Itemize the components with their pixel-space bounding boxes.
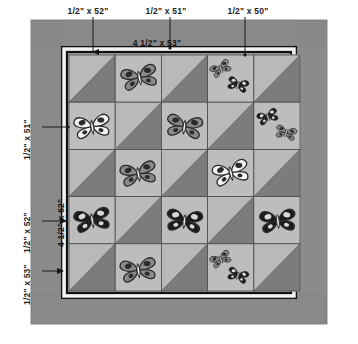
outer-border-left-shade (31, 20, 63, 324)
quilt-block-r4-c3 (208, 244, 254, 291)
quilt-block-r0-c0 (69, 55, 115, 102)
dimension-label-top-2: 1/2" x 51" (146, 6, 187, 16)
dimension-label-left-3: 1/2" x 53" (22, 264, 32, 305)
leader-51-left-endpoint (66, 125, 69, 128)
quilt-block-r2-c4 (254, 149, 300, 196)
quilt-block-r2-c0 (69, 149, 115, 196)
quilt-block-r0-c4 (254, 55, 300, 102)
block-background (254, 102, 300, 149)
quilt-block-r0-c1 (115, 55, 161, 102)
wing-spot-lower-left (231, 275, 234, 277)
quilt-block-r3-c2 (161, 197, 207, 244)
leader-50-endpoint (243, 53, 246, 56)
quilt-diagram-canvas (0, 0, 358, 344)
dimension-label-top-1: 1/2" x 52" (68, 6, 109, 16)
quilt-block-r4-c2 (161, 244, 207, 291)
dimension-label-inner-left: 4 1/2" x 62" (56, 199, 66, 247)
quilt-block-r3-c0 (69, 197, 115, 244)
quilt-block-grid (69, 55, 301, 292)
quilt-block-r3-c4 (254, 197, 300, 244)
quilt-block-r2-c1 (115, 149, 161, 196)
quilt-block-r0-c2 (161, 55, 207, 102)
quilt-block-r2-c2 (161, 149, 207, 196)
quilt-block-r4-c1 (115, 244, 161, 291)
quilt-block-r3-c1 (115, 197, 161, 244)
quilt-block-r4-c4 (254, 244, 300, 291)
quilt-diagram-svg (0, 0, 358, 344)
quilt-block-r1-c0 (69, 102, 115, 149)
quilt-block-r4-c0 (69, 244, 115, 291)
quilt-block-r0-c3 (208, 55, 254, 102)
dimension-label-left-2: 1/2" x 52" (22, 212, 32, 253)
dimension-label-top-3: 1/2" x 50" (228, 6, 269, 16)
quilt-block-r3-c3 (208, 197, 254, 244)
quilt-block-r1-c2 (161, 102, 207, 149)
quilt-block-r1-c4 (254, 102, 300, 149)
dimension-label-left-1: 1/2" x 51" (22, 119, 32, 160)
quilt-block-r2-c3 (208, 149, 254, 196)
quilt-block-r1-c3 (208, 102, 254, 149)
quilt-block-r1-c1 (115, 102, 161, 149)
wing-spot-upper-left (231, 79, 235, 82)
dimension-label-inner-top: 4 1/2" x 53" (133, 38, 181, 48)
